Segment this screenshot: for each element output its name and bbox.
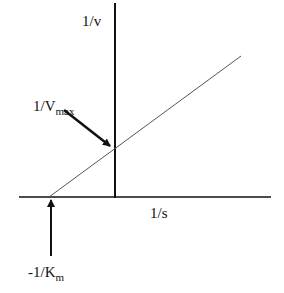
x-intercept-sub: m — [56, 271, 65, 283]
y-intercept-main: 1/V — [33, 98, 56, 114]
x-axis-label: 1/s — [150, 206, 168, 221]
lineweaver-burk-diagram — [0, 0, 284, 293]
y-axis-label: 1/v — [82, 14, 101, 29]
y-intercept-label: 1/Vmax — [33, 99, 74, 114]
x-intercept-label: -1/Km — [28, 265, 64, 280]
y-intercept-sub: max — [56, 105, 75, 117]
x-intercept-main: -1/K — [28, 264, 56, 280]
plot-line — [49, 56, 241, 197]
